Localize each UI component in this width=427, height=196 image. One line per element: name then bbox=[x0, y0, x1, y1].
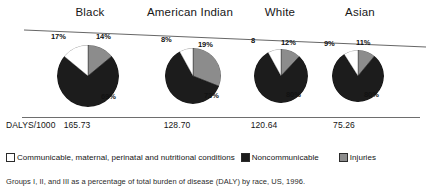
daly-value-black: 165.73 bbox=[48, 120, 106, 130]
legend-swatch-injuries-icon bbox=[339, 153, 348, 162]
slice-label-american-indian-communicable: 8% bbox=[161, 35, 172, 44]
plot-area: 17% 14% 69% 8% 19% 73% 8 12% 80% bbox=[0, 26, 427, 118]
daly-by-race-figure: Black American Indian White Asian 17% 14… bbox=[0, 0, 427, 196]
legend-swatch-noncommunicable-icon bbox=[241, 153, 250, 162]
column-header-asian: Asian bbox=[325, 6, 395, 18]
legend-item-communicable: Communicable, maternal, perinatal and nu… bbox=[6, 153, 235, 162]
column-headers: Black American Indian White Asian bbox=[0, 6, 427, 26]
pie-panel-black: 17% 14% 69% bbox=[35, 26, 145, 118]
slice-label-american-indian-noncommunicable: 73% bbox=[204, 91, 219, 100]
daly-value-asian: 75.26 bbox=[315, 120, 373, 130]
slice-label-asian-communicable: 9% bbox=[324, 39, 335, 48]
chart-legend: Communicable, maternal, perinatal and nu… bbox=[6, 150, 421, 164]
column-header-black: Black bbox=[55, 6, 125, 18]
slice-label-white-communicable: 8 bbox=[251, 36, 255, 45]
column-header-white: White bbox=[245, 6, 315, 18]
legend-swatch-communicable-icon bbox=[6, 153, 15, 162]
slice-label-white-injuries: 12% bbox=[281, 38, 296, 47]
column-header-american-indian: American Indian bbox=[135, 6, 245, 18]
legend-item-injuries: Injuries bbox=[339, 153, 376, 162]
slice-label-asian-noncommunicable: 80% bbox=[364, 90, 379, 99]
daly-value-white: 120.64 bbox=[235, 120, 293, 130]
legend-item-noncommunicable: Noncommunicable bbox=[241, 153, 319, 162]
figure-footnote: Groups I, II, and III as a percentage of… bbox=[6, 177, 421, 186]
legend-label-noncommunicable: Noncommunicable bbox=[252, 153, 319, 162]
slice-label-asian-injuries: 11% bbox=[356, 38, 370, 47]
daly-value-american-indian: 128.70 bbox=[148, 120, 206, 130]
slice-label-white-noncommunicable: 80% bbox=[286, 90, 301, 99]
daly-row: DALYS/1000 165.73 128.70 120.64 75.26 bbox=[0, 120, 427, 134]
slice-label-black-communicable: 17% bbox=[51, 32, 66, 41]
pie-panel-asian: 9% 11% 80% bbox=[312, 26, 422, 118]
legend-label-communicable: Communicable, maternal, perinatal and nu… bbox=[17, 153, 235, 162]
slice-label-black-noncommunicable: 69% bbox=[101, 92, 116, 101]
slice-label-black-injuries: 14% bbox=[96, 32, 111, 41]
legend-label-injuries: Injuries bbox=[350, 153, 376, 162]
slice-label-american-indian-injuries: 19% bbox=[198, 40, 213, 49]
axis-baseline bbox=[22, 117, 420, 118]
